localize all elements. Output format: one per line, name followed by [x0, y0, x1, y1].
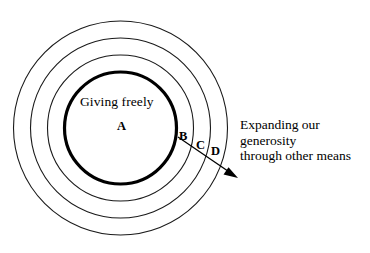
- caption-line-2: generosity: [240, 133, 351, 149]
- zone-b-letter-label: B: [179, 130, 187, 143]
- zone-c-letter-label: C: [196, 139, 205, 152]
- expansion-caption: Expanding our generosity through other m…: [240, 117, 351, 164]
- zone-d-letter-label: D: [211, 145, 220, 158]
- zone-a-letter-label: A: [117, 120, 126, 133]
- center-title-label: Giving freely: [80, 95, 154, 109]
- caption-line-3: through other means: [240, 148, 351, 164]
- caption-line-1: Expanding our: [240, 117, 351, 133]
- diagram-canvas: Giving freely A B C D Expanding our gene…: [0, 0, 370, 253]
